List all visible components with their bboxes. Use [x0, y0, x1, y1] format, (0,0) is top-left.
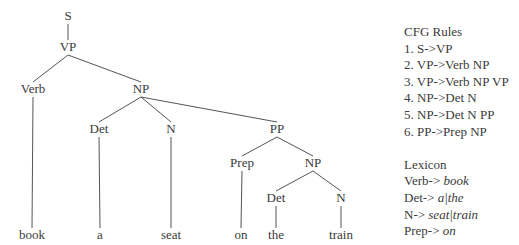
- lexicon-lhs: Verb->: [404, 173, 443, 188]
- tree-leaf-word: on: [235, 227, 249, 242]
- lexicon-rhs: book: [443, 173, 468, 188]
- cfg-rule: 2. VP->Verb NP: [404, 57, 509, 74]
- cfg-rule: 3. VP->Verb NP VP: [404, 74, 509, 91]
- tree-node-label: S: [64, 8, 71, 23]
- lexicon-lhs: N->: [404, 207, 428, 222]
- lexicon-rhs: on: [443, 223, 456, 238]
- lexicon-lhs: Prep->: [404, 223, 443, 238]
- tree-node-label: PP: [270, 121, 284, 136]
- lexicon-entry: N-> seat|train: [404, 207, 509, 224]
- tree-leaf-word: book: [19, 227, 46, 242]
- lexicon-rhs: a|the: [438, 190, 464, 205]
- tree-edge: [141, 97, 171, 122]
- tree-leaf-word: train: [329, 227, 353, 242]
- lexicon-entry: Prep-> on: [404, 223, 509, 240]
- parse-tree: SVPVerbNPDetNPPPrepNPDetNbookaseatonthet…: [0, 0, 400, 245]
- lexicon-entry: Det-> a|the: [404, 190, 509, 207]
- spacer: [404, 140, 509, 157]
- tree-leaf-word: a: [97, 227, 103, 242]
- tree-nodes: SVPVerbNPDetNPPPrepNPDetNbookaseatonthet…: [19, 8, 353, 242]
- lexicon-lhs: Det->: [404, 190, 438, 205]
- cfg-rule: 4. NP->Det N: [404, 90, 509, 107]
- tree-edge: [99, 137, 100, 228]
- tree-edge: [277, 137, 313, 156]
- tree-edge: [242, 137, 277, 156]
- grammar-panel: CFG Rules 1. S->VP 2. VP->Verb NP 3. VP-…: [404, 24, 509, 240]
- tree-node-label: NP: [305, 155, 322, 170]
- cfg-rule: 5. NP->Det N PP: [404, 107, 509, 124]
- cfg-rule: 1. S->VP: [404, 41, 509, 58]
- tree-node-label: Verb: [21, 81, 46, 96]
- tree-edge: [33, 55, 68, 82]
- tree-node-label: Det: [90, 121, 109, 136]
- tree-edge: [99, 97, 141, 122]
- lexicon-title: Lexicon: [404, 157, 509, 174]
- tree-node-label: N: [336, 190, 346, 205]
- lexicon-entry: Verb-> book: [404, 173, 509, 190]
- tree-edge: [313, 171, 341, 191]
- tree-edge: [141, 97, 277, 122]
- tree-leaf-word: seat: [161, 227, 182, 242]
- tree-edge: [68, 55, 141, 82]
- tree-node-label: Prep: [230, 155, 254, 170]
- tree-edge: [32, 97, 33, 228]
- tree-node-label: VP: [60, 39, 77, 54]
- tree-node-label: N: [166, 121, 176, 136]
- tree-edge: [241, 171, 242, 228]
- cfg-rule: 6. PP->Prep NP: [404, 124, 509, 141]
- tree-node-label: Det: [267, 190, 286, 205]
- tree-edge: [276, 171, 313, 191]
- lexicon-rhs: seat|train: [428, 207, 478, 222]
- tree-leaf-word: the: [268, 227, 284, 242]
- cfg-title: CFG Rules: [404, 24, 509, 41]
- tree-edges: [32, 24, 341, 228]
- tree-node-label: NP: [133, 81, 150, 96]
